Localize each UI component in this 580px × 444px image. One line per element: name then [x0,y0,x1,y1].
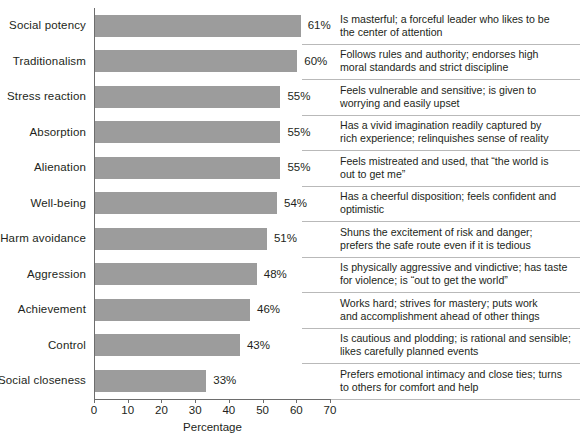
trait-description: Feels vulnerable and sensitive; is given… [340,79,580,115]
bar-value-label: 51% [274,221,297,257]
bar [95,228,267,250]
description-line: Feels mistreated and used, that “the wor… [340,155,548,168]
x-axis-tick [128,399,129,403]
description-line: likes carefully planned events [340,345,571,358]
bar [95,15,301,37]
category-label: Aggression [0,257,86,293]
bar-value-label: 43% [247,328,270,364]
description-line: prefers the safe route even if it is ted… [340,239,533,252]
x-axis-title: Percentage [94,421,331,433]
row-divider [302,399,580,400]
chart-row: Absorption55%Has a vivid imagination rea… [0,115,580,151]
bar [95,157,280,179]
chart-row: Achievement46%Works hard; strives for ma… [0,292,580,328]
trait-description: Shuns the excitement of risk and danger;… [340,221,580,257]
description-line: out to get me” [340,168,548,181]
description-line: worrying and easily upset [340,97,536,110]
category-label: Achievement [0,292,86,328]
bar-value-label: 61% [308,8,331,44]
trait-description: Is physically aggressive and vindictive;… [340,257,580,293]
description-line: for violence; is “out to get the world” [340,274,567,287]
chart-row: Well-being54%Has a cheerful disposition;… [0,186,580,222]
x-axis-tick [195,399,196,403]
description-line: Feels vulnerable and sensitive; is given… [340,84,536,97]
bar [95,299,250,321]
trait-description: Is masterful; a forceful leader who like… [340,8,580,44]
x-axis-tick-label: 70 [310,404,350,416]
bar-value-label: 48% [264,257,287,293]
category-label: Stress reaction [0,79,86,115]
chart-row: Harm avoidance51%Shuns the excitement of… [0,221,580,257]
chart-row: Alienation55%Feels mistreated and used, … [0,150,580,186]
bar-value-label: 33% [213,363,236,399]
bar-value-label: 46% [257,292,280,328]
x-axis-tick [94,399,95,403]
bar-track [95,50,331,72]
bar [95,121,280,143]
x-axis-tick [161,399,162,403]
chart-row: Control43%Is cautious and plodding; is r… [0,328,580,364]
trait-description: Is cautious and plodding; is rational an… [340,328,580,364]
bar-track [95,299,331,321]
description-line: Has a vivid imagination readily captured… [340,119,548,132]
trait-description: Feels mistreated and used, that “the wor… [340,150,580,186]
bar [95,50,297,72]
x-axis-tick [296,399,297,403]
category-label: Social potency [0,8,86,44]
category-label: Harm avoidance [0,221,86,257]
y-axis-line [94,8,95,399]
category-label: Absorption [0,115,86,151]
trait-description: Follows rules and authority; endorses hi… [340,44,580,80]
description-line: Is physically aggressive and vindictive;… [340,261,567,274]
description-line: Prefers emotional intimacy and close tie… [340,368,562,381]
chart-rows: Social potency61%Is masterful; a forcefu… [0,8,580,399]
chart-row: Traditionalism60%Follows rules and autho… [0,44,580,80]
chart-row: Aggression48%Is physically aggressive an… [0,257,580,293]
bar-value-label: 55% [287,150,310,186]
description-line: Follows rules and authority; endorses hi… [340,48,538,61]
description-line: optimistic [340,203,556,216]
bar [95,86,280,108]
bar-track [95,263,331,285]
bar-value-label: 60% [304,44,327,80]
x-axis-tick [263,399,264,403]
chart-row: Social closeness33%Prefers emotional int… [0,363,580,399]
category-label: Traditionalism [0,44,86,80]
description-line: the center of attention [340,26,550,39]
bar [95,263,257,285]
x-axis-tick [229,399,230,403]
category-label: Social closeness [0,363,86,399]
description-line: Works hard; strives for mastery; puts wo… [340,297,540,310]
bar [95,334,240,356]
chart-row: Stress reaction55%Feels vulnerable and s… [0,79,580,115]
description-line: moral standards and strict discipline [340,61,538,74]
description-line: rich experience; relinquishes sense of r… [340,132,548,145]
trait-description: Has a vivid imagination readily captured… [340,115,580,151]
description-line: Shuns the excitement of risk and danger; [340,226,533,239]
bar [95,192,277,214]
bar-value-label: 55% [287,115,310,151]
bar [95,370,206,392]
bar-value-label: 55% [287,79,310,115]
trait-description: Has a cheerful disposition; feels confid… [340,186,580,222]
category-label: Control [0,328,86,364]
bar-track [95,334,331,356]
chart-row: Social potency61%Is masterful; a forcefu… [0,8,580,44]
description-line: to others for comfort and help [340,381,562,394]
description-line: and accomplishment ahead of other things [340,310,540,323]
bar-track [95,15,331,37]
description-line: Is masterful; a forceful leader who like… [340,13,550,26]
x-axis-tick [330,399,331,403]
trait-description: Prefers emotional intimacy and close tie… [340,363,580,399]
category-label: Alienation [0,150,86,186]
horizontal-bar-chart: Social potency61%Is masterful; a forcefu… [0,0,580,444]
description-line: Is cautious and plodding; is rational an… [340,332,571,345]
description-line: Has a cheerful disposition; feels confid… [340,190,556,203]
bar-value-label: 54% [284,186,307,222]
trait-description: Works hard; strives for mastery; puts wo… [340,292,580,328]
category-label: Well-being [0,186,86,222]
